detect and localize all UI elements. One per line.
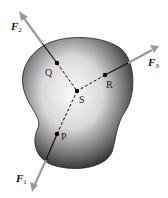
concurrent-forces-diagram: Q R S P F2 F3 F1 (0, 0, 168, 198)
arrowhead-f1-icon (30, 182, 38, 192)
force-arrow-f1 (30, 160, 46, 192)
point-p (55, 132, 59, 136)
label-f2: F2 (10, 20, 22, 34)
label-r: R (106, 79, 113, 90)
arrowhead-f3-icon (150, 45, 159, 53)
point-q (55, 61, 59, 65)
label-s: S (79, 94, 85, 105)
point-r (103, 73, 107, 77)
force-arrow-f2 (19, 11, 42, 43)
arrowhead-f2-icon (19, 11, 28, 21)
label-q: Q (45, 67, 53, 78)
rigid-body (22, 38, 132, 169)
label-p: P (61, 131, 67, 142)
label-f1: F1 (15, 172, 27, 186)
point-s (75, 89, 79, 93)
label-f3: F3 (147, 56, 159, 70)
